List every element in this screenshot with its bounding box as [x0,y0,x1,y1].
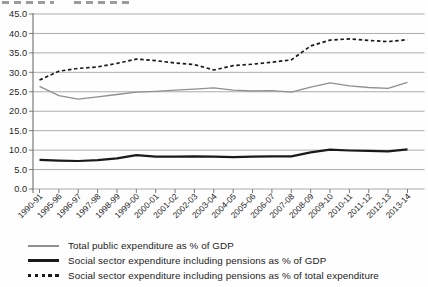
legend-line-grey-solid-icon [28,245,59,247]
legend-label: Total public expenditure as % of GDP [68,240,234,251]
y-tick-label: 35.0 [9,48,27,58]
legend-line-black-dashed-icon [28,274,59,277]
legend-item: Social sector expenditure including pens… [0,268,428,283]
y-tick-label: 25.0 [9,87,27,97]
y-tick-label: 45.0 [9,9,27,19]
line-chart: 0.05.010.015.020.025.030.035.040.045.019… [0,0,428,287]
chart-plot-area: 0.05.010.015.020.025.030.035.040.045.019… [0,0,428,237]
chart-legend: Total public expenditure as % of GDP Soc… [0,238,428,283]
y-tick-label: 30.0 [9,68,27,78]
series-line-1 [40,149,408,161]
series-line-0 [40,82,408,99]
y-tick-label: 40.0 [9,29,27,39]
y-tick-label: 5.0 [14,165,27,175]
series-line-2 [40,39,408,80]
legend-item: Social sector expenditure including pens… [0,253,428,268]
y-tick-label: 0.0 [14,184,27,194]
y-tick-label: 15.0 [9,126,27,136]
y-tick-label: 20.0 [9,106,27,116]
legend-item: Total public expenditure as % of GDP [0,238,428,253]
legend-line-black-solid-icon [28,259,59,262]
legend-label: Social sector expenditure including pens… [68,270,379,281]
legend-label: Social sector expenditure including pens… [68,255,326,266]
y-tick-label: 10.0 [9,145,27,155]
